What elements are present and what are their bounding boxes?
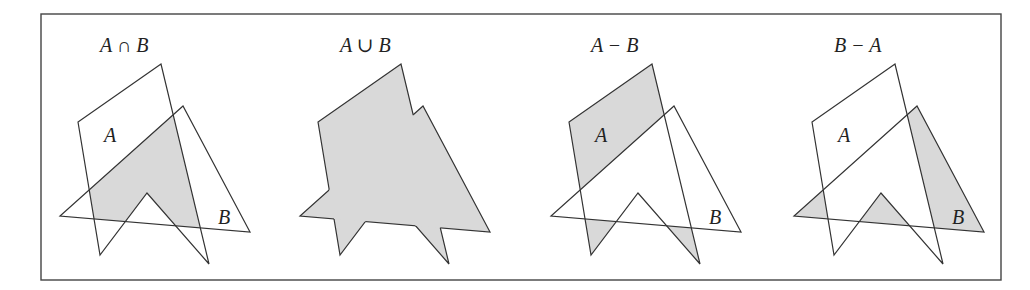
set-b-label: B	[218, 206, 230, 228]
shaded-region	[569, 64, 700, 264]
panel-intersection: A ∩ B A B	[60, 34, 250, 264]
set-a-label: A	[593, 124, 608, 146]
set-b-label: B	[952, 206, 964, 228]
set-b-label: B	[709, 206, 721, 228]
set-a-label: A	[102, 124, 117, 146]
panel-union: A ∪ B	[300, 34, 490, 264]
panel-a-minus-b: A − B A B	[551, 34, 741, 264]
set-operations-figure: A ∩ B A B A ∪ B A − B A B	[0, 0, 1030, 290]
panel-title: A ∪ B	[338, 34, 391, 56]
figure-canvas: A ∩ B A B A ∪ B A − B A B	[0, 0, 1030, 290]
set-a-label: A	[836, 124, 851, 146]
panel-title: B − A	[834, 34, 882, 56]
panel-b-minus-a: B − A A B	[794, 34, 984, 264]
panel-title: A − B	[589, 34, 639, 56]
panel-title: A ∩ B	[98, 34, 149, 56]
